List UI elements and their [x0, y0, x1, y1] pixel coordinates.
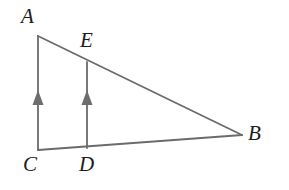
- vertex-label-b: B: [248, 123, 261, 144]
- vertex-label-c: C: [23, 154, 37, 175]
- parallel-arrow-de-icon: [82, 90, 93, 105]
- parallel-arrow-ca-icon: [33, 90, 44, 105]
- segment-AB: [38, 36, 242, 135]
- vertex-label-d: D: [79, 154, 94, 175]
- geometry-figure: A E B C D: [0, 0, 289, 190]
- triangle-diagram: [0, 0, 289, 190]
- vertex-label-a: A: [21, 6, 34, 27]
- vertex-label-e: E: [80, 30, 93, 51]
- segment-CB: [38, 135, 242, 150]
